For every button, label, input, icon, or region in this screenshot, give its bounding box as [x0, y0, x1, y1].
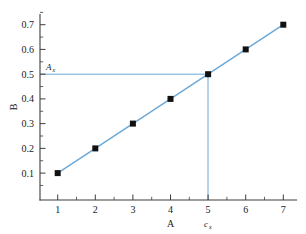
chart-container: 0.7 0.6 0.5 0.4 0.3 0.2 0.1 1 2 3 4 5 6 … — [0, 0, 306, 234]
chart-background — [0, 0, 306, 234]
x-tick-label-7: 7 — [281, 204, 286, 215]
y-tick-label-0.3: 0.3 — [22, 118, 35, 129]
data-point-marker[interactable] — [92, 145, 98, 151]
y-tick-label-0.1: 0.1 — [22, 168, 35, 179]
x-guide-annotation-main: c — [204, 219, 208, 229]
x-tick-label-6: 6 — [243, 204, 248, 215]
y-guide-annotation-subscript: x — [52, 67, 56, 73]
y-tick-label-0.6: 0.6 — [22, 44, 35, 55]
data-point-marker[interactable] — [168, 96, 174, 102]
line-chart-svg: 0.7 0.6 0.5 0.4 0.3 0.2 0.1 1 2 3 4 5 6 … — [0, 0, 306, 234]
data-point-marker[interactable] — [130, 121, 136, 127]
data-point-marker[interactable] — [55, 170, 61, 176]
data-point-marker[interactable] — [280, 22, 286, 28]
y-tick-label-0.5: 0.5 — [22, 69, 35, 80]
x-tick-label-3: 3 — [130, 204, 135, 215]
data-point-marker[interactable] — [243, 46, 249, 52]
y-axis-title: B — [8, 103, 19, 110]
y-guide-annotation-main: A — [45, 62, 52, 72]
y-tick-label-0.4: 0.4 — [22, 93, 35, 104]
y-tick-label-0.7: 0.7 — [22, 19, 35, 30]
x-guide-annotation-subscript: x — [208, 224, 212, 230]
x-axis-title: A — [167, 218, 175, 229]
x-tick-label-2: 2 — [93, 204, 98, 215]
x-tick-label-1: 1 — [55, 204, 60, 215]
x-tick-label-4: 4 — [168, 204, 173, 215]
data-point-marker[interactable] — [205, 71, 211, 77]
x-tick-label-5: 5 — [206, 204, 211, 215]
y-tick-label-0.2: 0.2 — [22, 143, 35, 154]
